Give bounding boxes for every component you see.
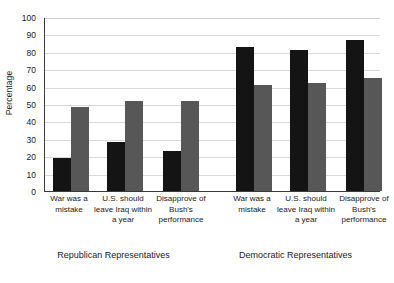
y-tick-50: 50 [0,101,36,110]
y-tick-100: 100 [0,14,36,23]
group-title-democratic: Democratic Representatives [208,249,383,261]
plot-area [44,18,380,192]
y-tick-70: 70 [0,66,36,75]
bar [346,40,364,191]
category-label-dem-2: U.S. should leave Iraq within a year [275,194,337,226]
y-tick-60: 60 [0,84,36,93]
category-label-dem-1: War was a mistake [221,194,283,215]
y-tick-20: 20 [0,153,36,162]
y-tick-80: 80 [0,49,36,58]
bars-layer [45,18,380,191]
category-label-rep-3: Disapprove of Bush's performance [148,194,214,226]
bar [236,47,254,191]
bar [308,83,326,191]
y-tick-90: 90 [0,31,36,40]
y-tick-0: 0 [0,188,36,197]
group-title-republican: Republican Representatives [26,249,201,261]
category-label-dem-3: Disapprove of Bush's performance [331,194,394,226]
category-label-rep-1: War was a mistake [38,194,100,215]
bar [107,142,125,191]
bar [53,158,71,191]
bar [364,78,382,191]
bar [163,151,181,191]
y-tick-40: 40 [0,118,36,127]
y-tick-10: 10 [0,171,36,180]
bar [290,50,308,191]
bar [125,101,143,191]
bar [71,107,89,191]
y-tick-30: 30 [0,136,36,145]
category-label-rep-2: U.S. should leave Iraq within a year [92,194,154,226]
bar [254,85,272,191]
bar [181,101,199,191]
category-labels: War was a mistake U.S. should leave Iraq… [44,194,380,246]
group-titles: Republican Representatives Democratic Re… [0,249,388,267]
y-axis-tick-labels: 100 90 80 70 60 50 40 30 20 10 0 [0,18,40,192]
